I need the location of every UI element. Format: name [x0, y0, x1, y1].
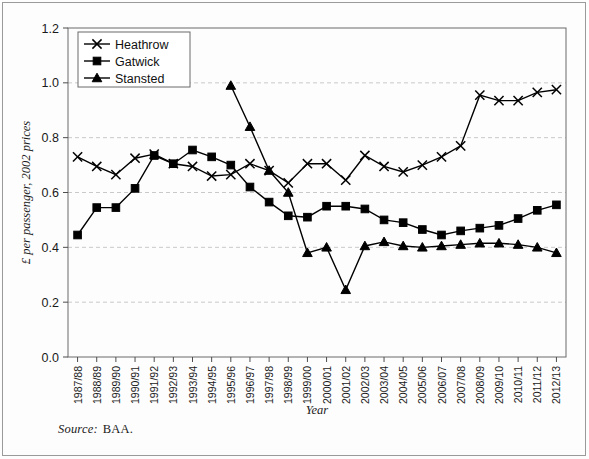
datapoint-stansted — [379, 237, 389, 246]
figure-container: 0.00.20.40.60.81.01.2£ per passenger, 20… — [0, 0, 589, 459]
ytick-label: 1.0 — [42, 76, 59, 90]
datapoint-stansted — [226, 81, 236, 90]
xtick-label: 1992/93 — [167, 366, 179, 404]
datapoint-gatwick — [533, 207, 541, 215]
xtick-label: 2001/02 — [340, 366, 352, 404]
series-line-stansted — [231, 86, 557, 290]
datapoint-gatwick — [476, 224, 484, 232]
datapoint-gatwick — [419, 226, 427, 234]
ytick-label: 0.2 — [42, 296, 59, 310]
xtick-label: 2004/05 — [397, 366, 409, 404]
datapoint-stansted — [245, 122, 255, 131]
datapoint-gatwick — [208, 153, 216, 161]
datapoint-gatwick — [304, 213, 312, 221]
legend-label-stansted: Stansted — [115, 72, 164, 86]
ytick-label: 0.6 — [42, 186, 59, 200]
xtick-label: 1995/96 — [225, 366, 237, 404]
datapoint-gatwick — [399, 219, 407, 227]
xtick-label: 1997/98 — [263, 366, 275, 404]
ytick-label: 0.0 — [42, 351, 59, 365]
xtick-label: 2005/06 — [416, 366, 428, 404]
y-axis-title: £ per passenger, 2002 prices — [19, 121, 33, 265]
datapoint-gatwick — [514, 215, 522, 223]
legend-square-marker — [93, 57, 101, 65]
xtick-label: 2011/12 — [531, 366, 543, 403]
source-value: BAA. — [103, 422, 133, 436]
source-label: Source: — [58, 422, 98, 436]
datapoint-gatwick — [265, 198, 273, 206]
ytick-label: 0.4 — [42, 241, 59, 255]
datapoint-gatwick — [438, 231, 446, 239]
line-chart: 0.00.20.40.60.81.01.2£ per passenger, 20… — [0, 0, 589, 459]
ytick-label: 1.2 — [42, 22, 59, 36]
xtick-label: 2007/08 — [455, 366, 467, 404]
x-axis-title: Year — [306, 403, 329, 417]
source-note: Source:BAA. — [58, 422, 133, 437]
legend-label-gatwick: Gatwick — [115, 55, 160, 69]
xtick-label: 2008/09 — [474, 366, 486, 404]
datapoint-gatwick — [93, 204, 101, 212]
datapoint-gatwick — [112, 204, 120, 212]
datapoint-gatwick — [323, 202, 331, 210]
xtick-label: 1989/90 — [110, 366, 122, 404]
ytick-label: 0.8 — [42, 131, 59, 145]
datapoint-gatwick — [74, 231, 82, 239]
xtick-label: 1987/88 — [72, 366, 84, 404]
datapoint-stansted — [341, 285, 351, 294]
xtick-label: 1998/99 — [282, 366, 294, 404]
datapoint-gatwick — [131, 185, 139, 193]
datapoint-gatwick — [342, 202, 350, 210]
datapoint-gatwick — [150, 152, 158, 160]
xtick-label: 1991/92 — [148, 366, 160, 404]
xtick-label: 2009/10 — [493, 366, 505, 404]
xtick-label: 2003/04 — [378, 366, 390, 404]
xtick-label: 1994/95 — [206, 366, 218, 404]
datapoint-stansted — [322, 243, 332, 252]
xtick-label: 2012/13 — [550, 366, 562, 404]
datapoint-gatwick — [361, 205, 369, 213]
datapoint-gatwick — [189, 146, 197, 154]
datapoint-gatwick — [246, 183, 254, 191]
xtick-label: 2010/11 — [512, 366, 524, 403]
xtick-label: 2006/07 — [436, 366, 448, 404]
series-line-heathrow — [78, 90, 557, 183]
datapoint-gatwick — [380, 216, 388, 224]
xtick-label: 2002/03 — [359, 366, 371, 404]
datapoint-gatwick — [170, 160, 178, 168]
datapoint-gatwick — [227, 161, 235, 169]
datapoint-gatwick — [553, 201, 561, 209]
datapoint-gatwick — [495, 222, 503, 230]
xtick-label: 2000/01 — [321, 366, 333, 404]
datapoint-gatwick — [284, 212, 292, 220]
xtick-label: 1999/00 — [301, 366, 313, 404]
xtick-label: 1988/89 — [91, 366, 103, 404]
datapoint-gatwick — [457, 227, 465, 235]
xtick-label: 1996/97 — [244, 366, 256, 404]
xtick-label: 1993/94 — [187, 366, 199, 404]
legend-label-heathrow: Heathrow — [115, 38, 169, 52]
xtick-label: 1990/91 — [129, 366, 141, 404]
